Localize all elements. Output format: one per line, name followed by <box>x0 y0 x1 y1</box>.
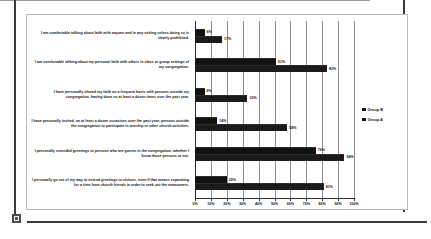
bar-wrapper: 20% <box>195 176 354 183</box>
category-label: I have personally shared my faith on a f… <box>29 80 192 110</box>
bar[interactable] <box>195 29 205 36</box>
bar-value-label: 94% <box>346 155 353 159</box>
bar[interactable] <box>195 154 344 161</box>
resize-handle-bottom-left[interactable] <box>12 214 21 223</box>
axis-tick <box>322 198 323 201</box>
bar-value-label: 83% <box>329 67 336 71</box>
bar-group: 76%94% <box>195 139 354 169</box>
bar-value-label: 58% <box>289 126 296 130</box>
bar-wrapper: 14% <box>195 117 354 124</box>
bars-plot-area: 6%17%51%83%6%33%14%58%76%94%20%81% <box>195 21 354 198</box>
axis-tick-label: 70% <box>303 202 310 206</box>
bar-value-label: 76% <box>318 148 325 152</box>
bar-wrapper: 6% <box>195 88 354 95</box>
bar[interactable] <box>195 117 217 124</box>
frame-edge-left <box>14 0 16 222</box>
axis-tick-label: 10% <box>207 202 214 206</box>
bar-wrapper: 51% <box>195 58 354 65</box>
axis-tick <box>338 198 339 201</box>
bar[interactable] <box>195 124 287 131</box>
bar-wrapper: 76% <box>195 147 354 154</box>
axis-tick <box>290 198 291 201</box>
axis-tick-label: 0% <box>192 202 197 206</box>
bar-wrapper: 58% <box>195 124 354 131</box>
category-label: I have personally invited, on at least a… <box>29 110 192 140</box>
bar-group: 51%83% <box>195 51 354 81</box>
axis-tick-label: 50% <box>271 202 278 206</box>
legend-swatch-icon <box>362 108 366 112</box>
bar-wrapper: 81% <box>195 183 354 190</box>
bar-group: 14%58% <box>195 110 354 140</box>
bar-value-label: 33% <box>249 96 256 100</box>
category-label-text: I personally go out of my way to extend … <box>29 178 189 188</box>
bar-group: 6%33% <box>195 80 354 110</box>
frame-edge-bottom <box>27 221 427 223</box>
category-label: I personally extended greetings to perso… <box>29 139 192 169</box>
legend-label: Group B <box>368 107 384 112</box>
category-axis-labels: I am comfortable talking about faith wit… <box>29 21 192 198</box>
axis-tick-label: 60% <box>287 202 294 206</box>
bar-value-label: 51% <box>278 60 285 64</box>
legend-swatch-icon <box>362 118 366 122</box>
bar[interactable] <box>195 88 205 95</box>
category-label-text: I am comfortable talking about my person… <box>29 60 189 70</box>
bar-value-label: 17% <box>224 37 231 41</box>
axis-tick <box>211 198 212 201</box>
category-label-text: I personally extended greetings to perso… <box>29 149 189 159</box>
axis-tick <box>259 198 260 201</box>
chart-plot-region: I am comfortable talking about faith wit… <box>27 15 409 211</box>
bar-value-label: 6% <box>207 89 212 93</box>
axis-tick <box>227 198 228 201</box>
document-frame: I am comfortable talking about faith wit… <box>0 0 431 239</box>
category-label-text: I am comfortable talking about faith wit… <box>29 31 189 41</box>
axis-tick <box>275 198 276 201</box>
bar-wrapper: 83% <box>195 65 354 72</box>
axis-tick-label: 100% <box>349 202 358 206</box>
frame-edge-bottom-inner <box>0 0 370 1</box>
bar-value-label: 14% <box>219 119 226 123</box>
bar[interactable] <box>195 65 327 72</box>
bar[interactable] <box>195 95 247 102</box>
bar-group: 6%17% <box>195 21 354 51</box>
category-label: I personally go out of my way to extend … <box>29 169 192 199</box>
legend-item-group-b[interactable]: Group B <box>362 107 406 112</box>
bar-value-label: 6% <box>207 30 212 34</box>
category-label: I am comfortable talking about faith wit… <box>29 21 192 51</box>
bar-value-label: 81% <box>326 185 333 189</box>
bar[interactable] <box>195 58 276 65</box>
axis-tick <box>306 198 307 201</box>
bar[interactable] <box>195 183 324 190</box>
chart-legend: Group B Group A <box>362 107 406 127</box>
bar[interactable] <box>195 147 316 154</box>
value-axis: 0%10%20%30%40%50%60%70%80%90%100% <box>195 198 354 211</box>
axis-tick-label: 20% <box>223 202 230 206</box>
bar-wrapper: 6% <box>195 29 354 36</box>
resize-handle-dot <box>15 217 18 220</box>
axis-tick <box>243 198 244 201</box>
category-label-text: I have personally invited, on at least a… <box>29 119 189 129</box>
bar[interactable] <box>195 176 227 183</box>
axis-tick <box>195 198 196 201</box>
bar-group: 20%81% <box>195 169 354 199</box>
bar-series-rows: 6%17%51%83%6%33%14%58%76%94%20%81% <box>195 21 354 198</box>
category-label-text: I have personally shared my faith on a f… <box>29 90 189 100</box>
bar-wrapper: 33% <box>195 95 354 102</box>
gridline <box>354 21 355 198</box>
bar[interactable] <box>195 36 222 43</box>
legend-item-group-a[interactable]: Group A <box>362 117 406 122</box>
axis-tick-label: 80% <box>319 202 326 206</box>
axis-tick-label: 90% <box>334 202 341 206</box>
chart-container[interactable]: I am comfortable talking about faith wit… <box>26 14 408 210</box>
axis-tick <box>354 198 355 201</box>
axis-tick-label: 40% <box>255 202 262 206</box>
bar-value-label: 20% <box>229 178 236 182</box>
bar-wrapper: 94% <box>195 154 354 161</box>
category-label: I am comfortable talking about my person… <box>29 51 192 81</box>
axis-tick-label: 30% <box>239 202 246 206</box>
bar-wrapper: 17% <box>195 36 354 43</box>
legend-label: Group A <box>368 117 383 122</box>
